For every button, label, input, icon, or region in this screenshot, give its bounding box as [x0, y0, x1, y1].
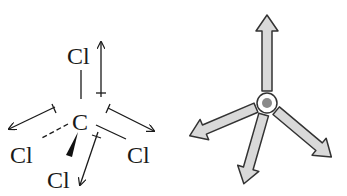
ccl4-dipole-diagram: Cl C Cl Cl Cl [0, 0, 347, 196]
center-dot [262, 98, 272, 108]
atom-cl-bottom: Cl [47, 167, 70, 193]
atom-cl-left: Cl [10, 142, 33, 168]
right-vector-diagram [185, 15, 338, 187]
dipole-arrow-left [9, 107, 55, 129]
atom-cl-top: Cl [67, 43, 90, 69]
bond-right [96, 125, 126, 139]
atom-cl-right: Cl [127, 142, 150, 168]
dipole-arrow-bottom [80, 132, 98, 185]
bond-left-dashed [40, 124, 68, 139]
left-molecule: Cl C Cl Cl Cl [9, 42, 154, 193]
dipole-arrow-right [108, 108, 154, 131]
atom-c-center: C [72, 109, 88, 135]
vector-arrow-left [185, 98, 260, 146]
vector-arrow-up [256, 15, 278, 91]
vector-arrow-down [233, 112, 274, 187]
bond-wedge [66, 132, 78, 157]
vector-arrow-right [269, 102, 338, 165]
